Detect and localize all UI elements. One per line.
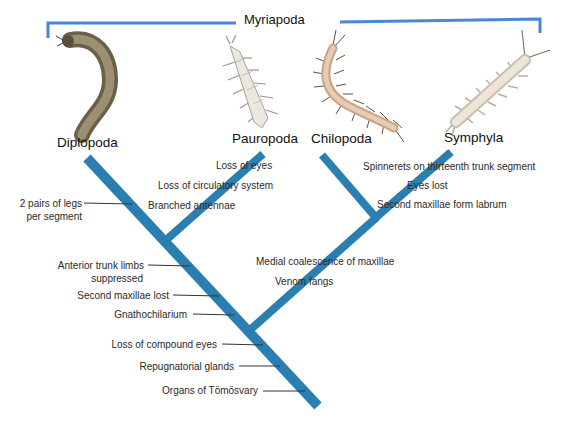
chilo-symphyla-stem-branch xyxy=(250,217,377,330)
taxon-label-chilopoda: Chilopoda xyxy=(311,131,372,146)
symphylan-icon xyxy=(446,30,550,136)
taxon-label-pauropoda: Pauropoda xyxy=(232,131,298,146)
char-label: Spinnerets on thirteenth trunk segment xyxy=(363,161,535,173)
pauropod-icon xyxy=(223,35,278,128)
char-label: Medial coalescence of maxillae xyxy=(256,256,394,268)
char-label: Gnathochilarium xyxy=(114,309,187,321)
char-label: Loss of compound eyes xyxy=(111,339,217,351)
group-label-myriapoda: Myriapoda xyxy=(241,12,308,27)
taxon-label-diplopoda: Diplopoda xyxy=(57,135,118,150)
char-label: Venom fangs xyxy=(275,276,333,288)
char-label: suppressed xyxy=(91,273,143,285)
taxon-label-symphyla: Symphyla xyxy=(444,130,503,145)
char-label: Second maxillae form labrum xyxy=(377,199,507,211)
char-label: Branched antennae xyxy=(148,200,235,212)
char-label: Organs of Tömösvary xyxy=(162,385,258,397)
char-label: Repugnatorial glands xyxy=(139,361,234,373)
myriapoda-cladogram: Myriapoda Diplopoda Pauropoda Chilopoda … xyxy=(0,0,570,421)
char-label: Anterior trunk limbs xyxy=(58,260,144,272)
char-label: 2 pairs of legs xyxy=(20,198,82,210)
centipede-icon xyxy=(313,30,404,142)
char-label: Second maxillae lost xyxy=(77,290,169,302)
millipede-icon xyxy=(56,35,110,135)
char-label: Loss of eyes xyxy=(216,160,272,172)
char-label: Eyes lost xyxy=(407,180,448,192)
char-label: per segment xyxy=(26,211,82,223)
char-label: Loss of circulatory system xyxy=(158,180,273,192)
